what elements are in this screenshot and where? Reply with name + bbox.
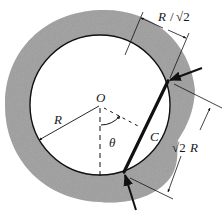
dim-right-R: R	[189, 140, 198, 155]
dim-top-R: R	[157, 9, 166, 24]
dim-top-slash: /	[170, 9, 174, 24]
dim-right-label: √2 R	[172, 140, 198, 155]
dim-right-sqrt2: √2	[172, 140, 186, 155]
radius-label-R: R	[53, 112, 62, 127]
radius-arrow	[39, 106, 99, 140]
chord-label-C: C	[150, 129, 159, 144]
center-label-O: O	[96, 90, 106, 105]
cavity-diagram: R / √2 √2 R O R C θ	[0, 0, 222, 219]
dim-right-arrow-a	[200, 108, 210, 130]
angle-label-theta: θ	[109, 135, 116, 150]
dim-top-sqrt2: √2	[176, 9, 190, 24]
theta-arc	[101, 116, 120, 125]
midpoint-dashed-line	[104, 108, 140, 127]
dim-top-label: R / √2	[157, 9, 190, 24]
